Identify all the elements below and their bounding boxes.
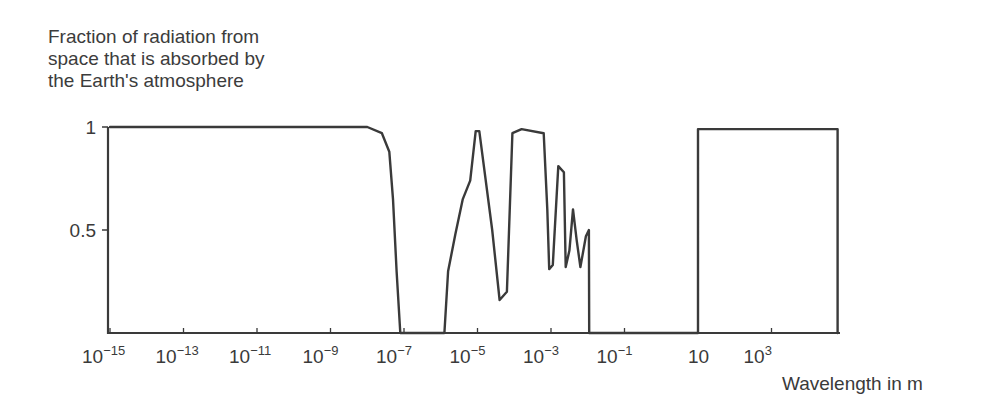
x-tick-label: 103 [744,343,772,367]
y-tick-label: 1 [85,117,96,138]
absorption-curve [110,127,838,333]
y-tick-label: 0.5 [70,220,96,241]
x-axis-label: Wavelength in m [782,373,923,394]
x-tick-label: 10−11 [229,343,271,367]
x-tick-label: 10−15 [82,343,125,367]
x-tick-label: 10−13 [156,343,199,367]
absorption-chart: 0.5110−1510−1310−1110−910−710−510−310−11… [0,0,996,420]
tick-marks: 0.5110−1510−1310−1110−910−710−510−310−11… [70,117,772,367]
x-tick-label: 10−7 [376,343,412,367]
absorption-line [110,127,838,333]
x-tick-label: 10−5 [450,343,486,367]
x-tick-label: 10 [688,346,709,367]
x-tick-label: 10−9 [303,343,339,367]
axes [108,127,840,334]
x-tick-label: 10−3 [523,343,559,367]
x-tick-label: 10−1 [597,343,633,367]
